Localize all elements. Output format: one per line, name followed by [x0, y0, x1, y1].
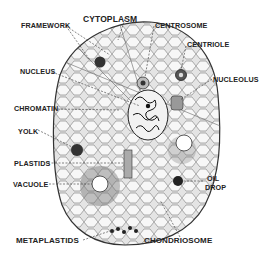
centrosome	[137, 77, 149, 89]
granules	[171, 96, 183, 110]
nucleolus-body	[95, 57, 106, 68]
label-framework: FRAMEWORK	[21, 22, 70, 29]
yolk-granule	[71, 144, 83, 156]
label-cytoplasm: CYTOPLASM	[83, 15, 137, 24]
label-centrosome: CENTROSOME	[155, 22, 208, 29]
vacuole	[92, 176, 108, 192]
label-oil: OIL	[207, 175, 219, 182]
cell-diagram	[0, 0, 261, 259]
nucleus	[128, 90, 168, 140]
label-plastids: PLASTIDS	[14, 160, 50, 167]
label-centriole: CENTRIOLE	[187, 41, 229, 48]
nucleolus-in-nucleus	[146, 104, 150, 108]
label-drop: DROP	[205, 184, 226, 191]
label-metaplastids: METAPLASTIDS	[16, 237, 79, 245]
label-yolk: YOLK	[18, 128, 38, 135]
plastids	[124, 150, 132, 178]
label-vacuole: VACUOLE	[13, 181, 48, 188]
vacuole-upper-right	[176, 135, 192, 151]
centriole	[176, 70, 187, 81]
label-nucleolus: NUCLEOLUS	[213, 76, 259, 83]
label-nucleus: NUCLEUS	[20, 68, 55, 75]
oil-drop	[173, 176, 183, 186]
label-chondriosome: CHONDRIOSOME	[144, 237, 212, 245]
label-chromatin: CHROMATIN	[14, 105, 58, 112]
